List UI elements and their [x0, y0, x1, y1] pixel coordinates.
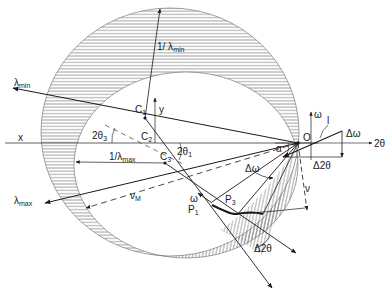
inset-label-delta-2theta: Δ2θ — [313, 160, 331, 171]
inset-label-2theta: 2θ — [374, 138, 386, 149]
point-c1 — [143, 116, 146, 119]
label-omega: ω — [190, 193, 198, 204]
label-x: x — [18, 132, 23, 143]
label-origin: O — [303, 132, 311, 143]
inset-label-l: l — [327, 115, 329, 126]
label-lambda-max: λmax — [14, 195, 33, 207]
ewald-construction-diagram: λmin 1/ λmin C1 y x C2 2θ3 2θ1 1/λmax C3… — [0, 0, 388, 294]
label-y: y — [159, 104, 164, 115]
label-nu: ν — [305, 183, 310, 194]
inset-label-delta-omega: Δω — [346, 128, 361, 139]
label-delta-two-theta: Δ2θ — [254, 243, 272, 254]
inset-l-leader — [320, 125, 328, 138]
nu-dashed — [298, 143, 307, 210]
inset-label-alpha: α — [276, 143, 282, 154]
label-delta-omega: Δω — [245, 163, 260, 174]
label-lambda-min: λmin — [14, 77, 30, 89]
inset-label-omega: ω — [314, 109, 322, 120]
